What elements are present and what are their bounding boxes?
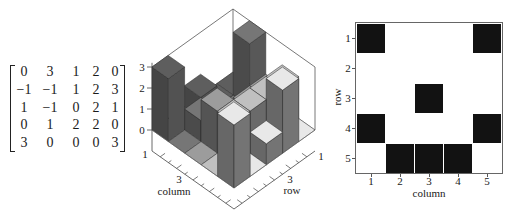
row-axis-tick bbox=[237, 200, 242, 203]
heatmap-cell-r3-c5 bbox=[473, 84, 501, 113]
bar3d-column-tick-label: 1 bbox=[142, 149, 148, 160]
heatmap-row-tick-label: 5 bbox=[345, 153, 351, 164]
bar3d-row-axis-label: row bbox=[283, 185, 300, 196]
heatmap-cell-r5-c5 bbox=[473, 144, 501, 173]
heatmap-cell-r2-c5 bbox=[473, 54, 501, 83]
column-axis-tick bbox=[226, 200, 231, 203]
heatmap-cell-r2-c1 bbox=[357, 54, 385, 83]
heatmap-cell-r2-c2 bbox=[386, 54, 414, 83]
heatmap-cell-r5-c2 bbox=[386, 144, 414, 173]
bar-front-right-face bbox=[283, 79, 299, 154]
column-axis-tick bbox=[193, 177, 198, 180]
heatmap-cell-r5-c4 bbox=[444, 144, 472, 173]
heatmap-cell-r3-c2 bbox=[386, 84, 414, 113]
z-tick-label: 1 bbox=[139, 104, 145, 115]
heatmap-row-tick bbox=[352, 158, 355, 159]
z-tick-label: 3 bbox=[139, 62, 145, 73]
row-axis-tick bbox=[247, 195, 250, 197]
bar3d-row-tick-label: 1 bbox=[318, 151, 324, 162]
heatmap-column-tick-label: 5 bbox=[484, 176, 490, 187]
column-axis-tick bbox=[185, 172, 188, 174]
heatmap-row-tick-label: 4 bbox=[345, 123, 351, 134]
heatmap-plot-area bbox=[355, 22, 503, 174]
bar-front-left-face bbox=[152, 67, 168, 142]
bar-r5-c1 bbox=[152, 55, 185, 141]
heatmap-row-tick-label: 2 bbox=[345, 63, 351, 74]
heatmap-row-tick bbox=[352, 38, 355, 39]
column-axis-tick bbox=[201, 184, 204, 186]
bar-front-right-face bbox=[234, 113, 250, 188]
heatmap-cell-r1-c3 bbox=[415, 24, 443, 53]
heatmap-cell-r4-c5 bbox=[473, 114, 501, 143]
row-axis-tick bbox=[280, 172, 283, 174]
heatmap-cell-r2-c4 bbox=[444, 54, 472, 83]
heatmap-cell-r3-c1 bbox=[357, 84, 385, 113]
row-axis-tick bbox=[296, 161, 299, 163]
row-axis-tick bbox=[253, 188, 258, 191]
heatmap-cell-r1-c5 bbox=[473, 24, 501, 53]
column-axis-tick bbox=[218, 195, 221, 197]
heatmap-cell-r4-c3 bbox=[415, 114, 443, 143]
bar3d-column-tick-label: 3 bbox=[176, 174, 182, 185]
heatmap-cell-r1-c2 bbox=[386, 24, 414, 53]
heatmap-cell-r1-c1 bbox=[357, 24, 385, 53]
heatmap-column-axis-label: column bbox=[413, 188, 446, 199]
bar3d-column-axis-label: column bbox=[158, 186, 191, 197]
heatmap-column-tick-label: 3 bbox=[426, 176, 432, 187]
bar-r5-c5 bbox=[218, 102, 251, 188]
heatmap-column-tick-label: 2 bbox=[397, 176, 403, 187]
heatmap-column-tick-label: 1 bbox=[368, 176, 374, 187]
row-axis-tick bbox=[302, 153, 307, 156]
heatmap-cell-r4-c1 bbox=[357, 114, 385, 143]
heatmap-column-tick-label: 4 bbox=[455, 176, 461, 187]
heatmap-cell-r4-c4 bbox=[444, 114, 472, 143]
row-axis-tick bbox=[263, 184, 266, 186]
column-axis-tick bbox=[160, 153, 165, 156]
heatmap-row-tick bbox=[352, 128, 355, 129]
column-axis-tick bbox=[209, 188, 214, 191]
heatmap-cell-r5-c1 bbox=[357, 144, 385, 173]
heatmap-cell-r5-c3 bbox=[415, 144, 443, 173]
heatmap-cell-r3-c3 bbox=[415, 84, 443, 113]
heatmap-row-tick-label: 3 bbox=[345, 93, 351, 104]
column-axis-tick bbox=[177, 165, 182, 168]
heatmap-row-tick bbox=[352, 68, 355, 69]
figure-canvas: 0 3 1 2 0 −1 −1 1 2 3 1 −1 0 2 1 0 1 2 2… bbox=[0, 0, 517, 222]
row-axis-tick bbox=[270, 177, 275, 180]
row-axis-tick bbox=[286, 165, 291, 168]
z-tick-label: 2 bbox=[139, 83, 145, 94]
z-tick-label: 0 bbox=[139, 125, 145, 136]
heatmap-cell-r1-c4 bbox=[444, 24, 472, 53]
bar-front-right-face bbox=[168, 67, 184, 142]
heatmap-cell-r3-c4 bbox=[444, 84, 472, 113]
heatmap-cell-r2-c3 bbox=[415, 54, 443, 83]
heatmap-row-tick-label: 1 bbox=[345, 33, 351, 44]
heatmap-cell-r4-c2 bbox=[386, 114, 414, 143]
bar-front-left-face bbox=[218, 113, 234, 188]
heatmap-row-axis-label: row bbox=[332, 88, 343, 105]
column-axis-tick bbox=[168, 161, 171, 163]
heatmap-row-tick bbox=[352, 98, 355, 99]
